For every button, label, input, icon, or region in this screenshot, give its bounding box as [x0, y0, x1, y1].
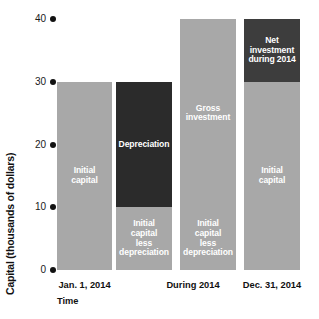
bar-segment-label: Depreciation [119, 140, 170, 150]
x-axis-label: During 2014 [150, 278, 236, 292]
y-axis-tick-dot-icon [50, 142, 56, 148]
bar: Initial capital less depreciationGross i… [180, 19, 236, 270]
bar-segment-label: Initial capital less depreciation [183, 219, 233, 258]
bar-segment: Initial capital less depreciation [180, 207, 236, 270]
y-axis-tick-label: 10 [35, 202, 46, 212]
bar-segment-label: Initial capital less depreciation [119, 219, 169, 258]
bar-segment-label: Net investment during 2014 [248, 36, 295, 65]
y-axis-tick-label: 0 [40, 265, 46, 275]
y-axis-tick-dot-icon [50, 267, 56, 273]
y-axis-tick-label: 20 [35, 140, 46, 150]
y-axis-tick: 0 [20, 263, 56, 277]
y-axis-tick-label: 40 [35, 14, 46, 24]
bar: Initial capital less depreciationDepreci… [116, 82, 172, 270]
y-axis-tick: 10 [20, 200, 56, 214]
x-axis-title: Time [57, 296, 79, 306]
y-axis-tick: 20 [20, 138, 56, 152]
y-axis-tick-dot-icon [50, 204, 56, 210]
bar-segment-label: Gross investment [186, 104, 230, 123]
y-axis-tick-label: 30 [35, 77, 46, 87]
bar: Initial capital [57, 82, 112, 270]
y-axis-tick-dot-icon [50, 79, 56, 85]
bar-segment: Depreciation [116, 82, 172, 208]
bar-segment-label: Initial capital [259, 166, 286, 185]
bar-segment: Initial capital less depreciation [116, 207, 172, 270]
y-axis-tick-dot-icon [50, 16, 56, 22]
y-axis-tick: 40 [20, 12, 56, 26]
bar-segment: Net investment during 2014 [244, 19, 300, 82]
capital-stock-flow-chart: Capital (thousands of dollars) 010203040… [0, 0, 319, 319]
bar-segment: Gross investment [180, 19, 236, 207]
x-axis-label: Jan. 1, 2014 [57, 278, 112, 292]
bar-segment-label: Initial capital [71, 166, 98, 185]
bar: Initial capitalNet investment during 201… [244, 19, 300, 270]
y-axis-tick: 30 [20, 75, 56, 89]
bar-segment: Initial capital [57, 82, 112, 270]
x-axis-label: Dec. 31, 2014 [238, 278, 306, 292]
bar-segment: Initial capital [244, 82, 300, 270]
